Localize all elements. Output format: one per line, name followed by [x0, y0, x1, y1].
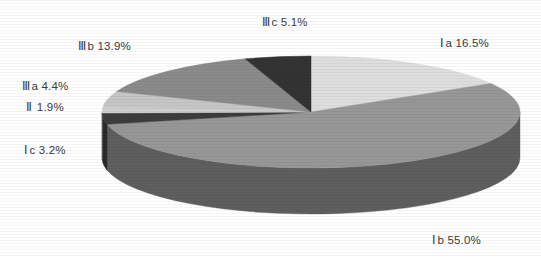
roman-numeral-ii: Ⅱ	[26, 101, 31, 113]
slice-label-iiib-text: b 13.9%	[87, 40, 131, 52]
slice-label-ia: Ⅰa 16.5%	[440, 37, 489, 50]
slice-label-ii-text: 1.9%	[33, 101, 63, 113]
slice-label-ic-text: c 3.2%	[29, 144, 65, 156]
roman-numeral-iii: Ⅲ	[78, 40, 85, 52]
roman-numeral-iii: Ⅲ	[22, 80, 29, 92]
slice-label-ic: Ⅰc 3.2%	[24, 144, 66, 157]
roman-numeral-i: Ⅰ	[24, 144, 27, 156]
slice-label-iiia-text: a 4.4%	[31, 80, 68, 92]
slice-label-iiic: Ⅲc 5.1%	[262, 16, 308, 29]
roman-numeral-iii: Ⅲ	[262, 16, 269, 28]
roman-numeral-i: Ⅰ	[432, 234, 435, 246]
pie-chart-figure: Ⅲc 5.1% Ⅰa 16.5% Ⅲb 13.9% Ⅲa 4.4% Ⅱ 1.9%…	[0, 0, 541, 258]
slice-label-ia-text: a 16.5%	[445, 37, 489, 49]
slice-label-iiia: Ⅲa 4.4%	[22, 80, 68, 93]
slice-label-ii: Ⅱ 1.9%	[26, 101, 64, 114]
slice-label-ib: Ⅰb 55.0%	[432, 234, 481, 247]
slice-label-iiib: Ⅲb 13.9%	[78, 40, 131, 53]
slice-label-iiic-text: c 5.1%	[271, 16, 307, 28]
roman-numeral-i: Ⅰ	[440, 37, 443, 49]
slice-label-ib-text: b 55.0%	[437, 234, 481, 246]
